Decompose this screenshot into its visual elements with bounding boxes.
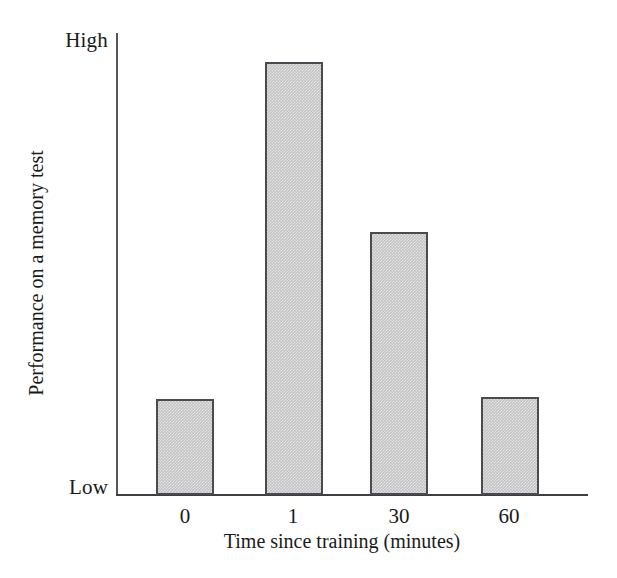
bar-series	[0, 0, 617, 578]
x-axis-tick-1: 1	[258, 504, 328, 528]
bar-30	[370, 232, 428, 495]
x-axis-tick-3: 60	[474, 504, 544, 528]
x-axis-tick-2: 30	[364, 504, 434, 528]
bar-1	[265, 62, 323, 495]
chart-figure: Performance on a memory test High Low 0 …	[0, 0, 617, 578]
x-axis-title: Time since training (minutes)	[117, 528, 567, 554]
x-axis-tick-0: 0	[150, 504, 220, 528]
bar-60	[481, 397, 539, 495]
bar-0	[156, 399, 214, 495]
